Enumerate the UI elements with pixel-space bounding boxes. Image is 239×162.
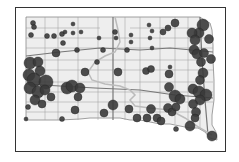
map-symbol bbox=[47, 93, 55, 101]
map-symbol bbox=[150, 29, 154, 33]
map-symbol bbox=[71, 22, 75, 26]
map-symbol bbox=[63, 30, 67, 34]
map-symbol bbox=[147, 105, 156, 114]
map-symbol bbox=[71, 31, 75, 35]
map-symbol bbox=[165, 83, 174, 92]
map-symbol bbox=[33, 57, 43, 67]
south-dakota-map bbox=[0, 0, 239, 162]
map-symbol bbox=[60, 117, 65, 122]
map-symbol bbox=[40, 85, 50, 95]
map-symbol bbox=[97, 36, 101, 40]
map-symbol bbox=[172, 103, 180, 111]
map-symbol bbox=[157, 117, 165, 125]
map-symbol bbox=[200, 49, 209, 58]
map-symbol bbox=[79, 30, 83, 34]
map-symbol bbox=[32, 25, 37, 30]
map-symbol bbox=[185, 121, 195, 131]
map-symbol bbox=[191, 114, 199, 122]
map-symbol bbox=[165, 70, 173, 78]
map-symbol bbox=[74, 93, 82, 101]
map-symbol bbox=[189, 100, 198, 109]
map-symbol bbox=[108, 100, 118, 110]
map-symbol bbox=[133, 114, 141, 122]
map-symbol bbox=[168, 65, 172, 69]
map-symbol bbox=[148, 66, 155, 73]
map-symbol bbox=[160, 29, 166, 35]
map-symbol bbox=[174, 127, 179, 132]
map-symbol bbox=[101, 48, 106, 53]
map-symbol bbox=[129, 40, 133, 44]
map-symbol bbox=[52, 49, 60, 57]
map-symbol bbox=[150, 46, 154, 50]
map-symbol bbox=[75, 48, 80, 53]
map-symbol bbox=[81, 68, 89, 76]
map-symbol bbox=[52, 34, 57, 39]
map-symbol bbox=[26, 105, 31, 110]
map-symbol bbox=[175, 94, 185, 104]
map-symbol bbox=[147, 23, 151, 27]
map-symbol bbox=[114, 68, 122, 76]
map-symbol bbox=[45, 34, 50, 39]
map-symbol bbox=[75, 83, 85, 93]
map-symbol bbox=[129, 33, 133, 37]
map-symbol bbox=[95, 60, 100, 65]
map-symbol bbox=[207, 131, 217, 141]
map-symbol bbox=[24, 117, 28, 121]
map-symbol bbox=[29, 33, 34, 38]
map-symbol bbox=[143, 114, 151, 122]
map-symbol bbox=[114, 36, 118, 40]
map-symbol bbox=[205, 35, 214, 44]
map-symbol bbox=[100, 109, 108, 117]
map-symbol bbox=[61, 41, 66, 46]
map-symbol bbox=[197, 58, 206, 67]
map-symbol bbox=[148, 36, 152, 40]
map-symbol bbox=[171, 19, 179, 27]
map-symbol bbox=[38, 100, 46, 108]
map-symbol bbox=[113, 30, 118, 35]
map-symbol bbox=[125, 48, 130, 53]
map-symbol bbox=[125, 105, 133, 113]
map-symbol bbox=[207, 55, 216, 64]
map-symbol bbox=[196, 76, 205, 85]
map-symbol bbox=[165, 25, 171, 31]
map-symbol bbox=[71, 106, 79, 114]
map-symbol bbox=[190, 35, 200, 45]
